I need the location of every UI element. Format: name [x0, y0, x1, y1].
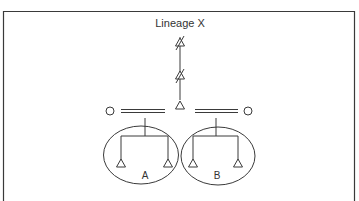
group-a-bracket [121, 136, 168, 162]
triangle-icon [234, 159, 243, 167]
group-a: A [104, 118, 179, 184]
group-b-bracket [193, 136, 238, 162]
group-a-label: A [142, 170, 149, 181]
left-double-line [121, 110, 165, 113]
lineage-diagram: Lineage X A B [0, 0, 359, 201]
group-b-label: B [214, 170, 221, 181]
triangle-icon [189, 159, 198, 167]
group-b: B [181, 118, 255, 185]
left-circle-icon [106, 107, 114, 115]
open-triangle-icon [176, 101, 185, 109]
right-circle-icon [244, 107, 252, 115]
lineage-title: Lineage X [155, 17, 205, 29]
right-double-line [195, 110, 238, 113]
triangle-icon [117, 159, 126, 167]
triangle-icon [164, 159, 173, 167]
